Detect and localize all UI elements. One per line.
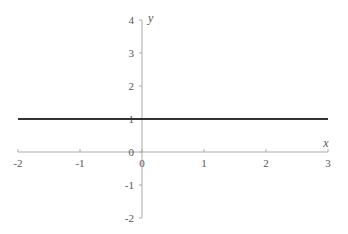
y-tick-label: -1 [125, 179, 134, 191]
x-tick-label: -2 [13, 157, 22, 169]
y-tick-label: 3 [129, 47, 135, 59]
x-tick-label: 1 [201, 157, 207, 169]
x-tick-label: 3 [325, 157, 331, 169]
y-tick-label: 2 [129, 80, 135, 92]
y-tick-label: -2 [125, 212, 134, 224]
x-tick-label: 0 [139, 157, 145, 169]
x-tick-label: 2 [263, 157, 269, 169]
chart: -2-10123-2-101234xy [0, 0, 348, 234]
y-axis-label: y [147, 11, 154, 25]
plot-area: -2-10123-2-101234xy [0, 0, 348, 234]
y-tick-label: 0 [129, 146, 135, 158]
y-tick-label: 4 [129, 14, 135, 26]
x-axis-label: x [322, 136, 329, 150]
x-tick-label: -1 [75, 157, 84, 169]
